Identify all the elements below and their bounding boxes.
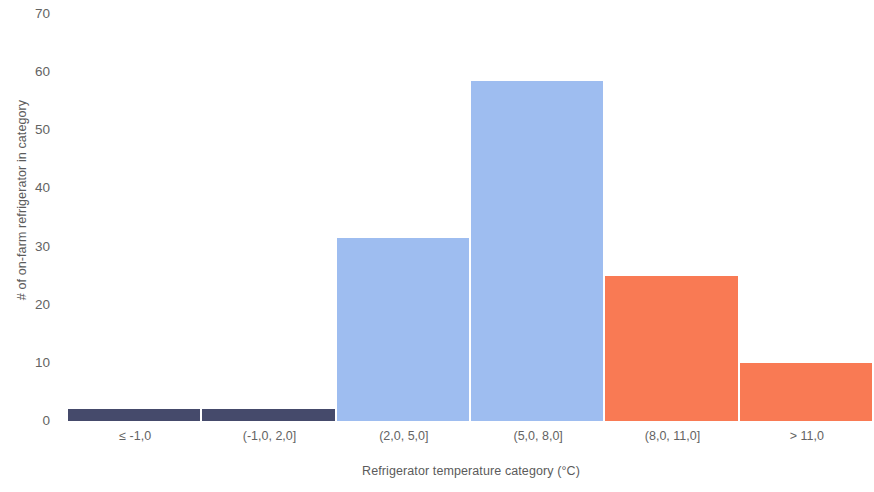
plot-area (68, 14, 874, 421)
histogram-chart: # of on-farm refrigerator in category 01… (0, 0, 874, 492)
y-axis-tick-labels: 010203040506070 (0, 0, 58, 492)
bar (605, 276, 737, 421)
bar (740, 363, 872, 421)
y-axis-tick-label: 70 (0, 7, 50, 21)
y-axis-tick-label: 40 (0, 182, 50, 196)
bar (68, 409, 200, 421)
x-axis-title: Refrigerator temperature category (°C) (68, 464, 874, 478)
bar (471, 81, 603, 421)
x-axis-tick-label: > 11,0 (740, 429, 874, 443)
x-axis-tick-label: (8,0, 11,0] (605, 429, 739, 443)
y-axis-tick-label: 10 (0, 356, 50, 370)
bar (202, 409, 334, 421)
x-axis-tick-label: (-1,0, 2,0] (202, 429, 336, 443)
x-axis-tick-label: (5,0, 8,0] (471, 429, 605, 443)
y-axis-tick-label: 0 (0, 414, 50, 428)
y-axis-tick-label: 20 (0, 298, 50, 312)
x-axis-tick-label: (2,0, 5,0] (337, 429, 471, 443)
y-axis-tick-label: 30 (0, 240, 50, 254)
bar (337, 238, 469, 421)
y-axis-tick-label: 50 (0, 124, 50, 138)
x-axis-tick-labels: ≤ -1,0(-1,0, 2,0](2,0, 5,0](5,0, 8,0](8,… (68, 429, 874, 453)
y-axis-tick-label: 60 (0, 65, 50, 79)
x-axis-tick-label: ≤ -1,0 (68, 429, 202, 443)
